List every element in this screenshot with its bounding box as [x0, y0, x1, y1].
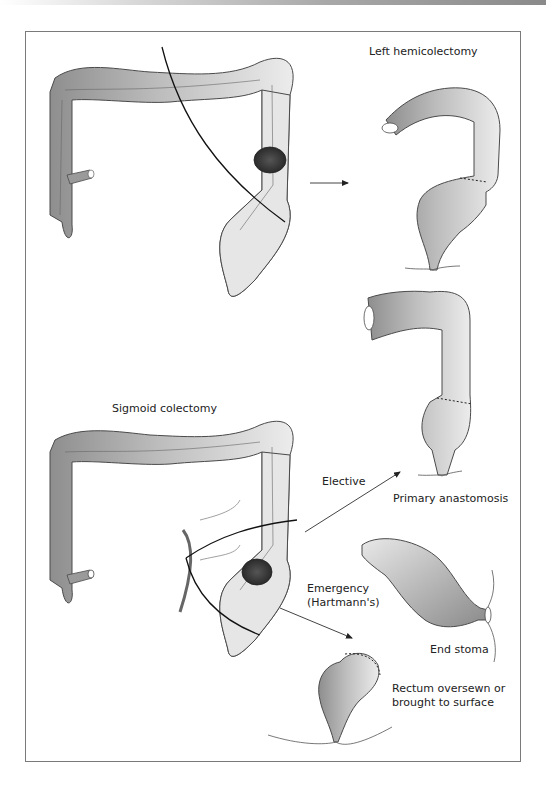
- tumour-icon: [254, 147, 286, 173]
- end-stoma-label: End stoma: [430, 643, 489, 657]
- elective-label: Elective: [322, 475, 365, 489]
- tumour-icon: [242, 559, 272, 585]
- left-hemicolectomy-result: [382, 88, 500, 270]
- colectomy-diagram: [0, 0, 546, 786]
- hartmanns-label: (Hartmann's): [307, 596, 380, 610]
- brought-to-surface-label: brought to surface: [392, 696, 494, 710]
- sigmoid-colectomy-label: Sigmoid colectomy: [112, 402, 217, 416]
- rectum-oversewn-label: Rectum oversewn or: [392, 682, 505, 696]
- colon-top: [50, 47, 293, 296]
- rectum-stump-result: [268, 653, 392, 744]
- emergency-label: Emergency: [307, 582, 369, 596]
- primary-anastomosis-result: [364, 291, 472, 476]
- left-hemicolectomy-label: Left hemicolectomy: [369, 45, 478, 59]
- arrow-icon: [280, 608, 352, 638]
- primary-anastomosis-label: Primary anastomosis: [393, 492, 508, 506]
- colon-bottom: [50, 421, 297, 656]
